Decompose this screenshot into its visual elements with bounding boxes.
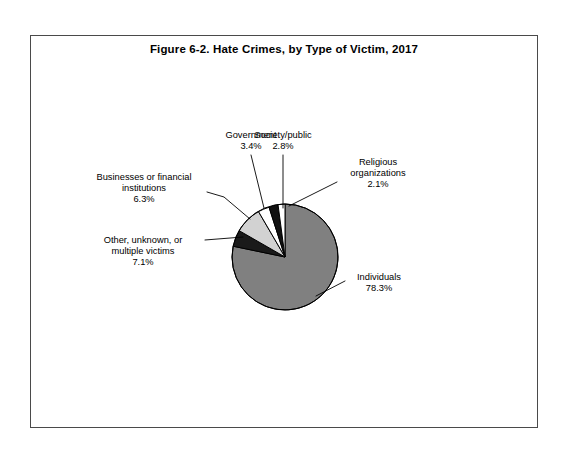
pie-label-individuals: Individuals 78.3%: [347, 272, 411, 294]
leader-line-government: [251, 155, 264, 208]
pie-label-other-unknown-multiple: Other, unknown, or multiple victims 7.1%: [82, 235, 204, 269]
pie-label-religious-organizations: Religious organizations 2.1%: [335, 157, 421, 191]
pie-chart: Government 3.4% Society/public 2.8% Reli…: [0, 0, 568, 464]
pie-label-society-public: Society/public 2.8%: [235, 130, 331, 152]
pie-label-businesses-financial: Businesses or financial institutions 6.3…: [82, 172, 206, 206]
leader-line-religious-organizations: [289, 182, 337, 206]
leader-line-businesses-financial: [207, 192, 250, 219]
pie-chart-svg: [0, 0, 568, 464]
